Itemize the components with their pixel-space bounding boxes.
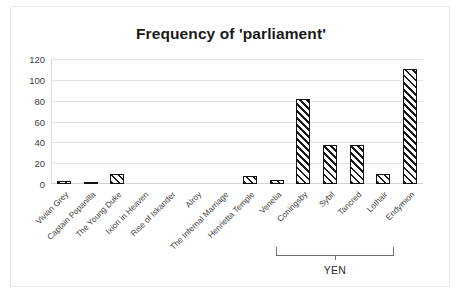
bar[interactable]: [350, 145, 364, 184]
bar-slot: [370, 59, 397, 184]
y-tick-label-40: 40: [34, 137, 45, 148]
bar-slot: [237, 59, 264, 184]
bar-slot: [343, 59, 370, 184]
yen-group-label: YEN: [276, 264, 394, 276]
y-tick-label-20: 20: [34, 158, 45, 169]
plot-area: 120 100 80 60 40 20 0: [51, 59, 423, 184]
x-axis-label: Alroy: [184, 190, 204, 210]
y-tick-label-0: 0: [40, 179, 45, 190]
y-tick-label-100: 100: [29, 74, 45, 85]
bar[interactable]: [84, 182, 98, 184]
bar-slot: [131, 59, 158, 184]
x-axis-label: Lothair: [365, 190, 389, 214]
bar-slot: [157, 59, 184, 184]
x-label-slot: Henrietta Temple: [237, 188, 264, 258]
yen-bracket-icon: [276, 247, 394, 256]
bar-series: [51, 59, 423, 184]
bar-slot: [104, 59, 131, 184]
bar[interactable]: [296, 99, 310, 184]
yen-annotation-group: YEN: [276, 247, 394, 276]
bar-slot: [78, 59, 105, 184]
bar-slot: [184, 59, 211, 184]
bar[interactable]: [270, 180, 284, 184]
x-axis-label: Sybil: [317, 190, 336, 209]
bar-slot: [210, 59, 237, 184]
bar-slot: [317, 59, 344, 184]
bar[interactable]: [323, 145, 337, 184]
chart-title: Frequency of 'parliament': [11, 25, 451, 43]
y-tick-label-120: 120: [29, 54, 45, 65]
bar[interactable]: [403, 69, 417, 184]
chart-container: Frequency of 'parliament' 120 100 80 60 …: [10, 6, 450, 287]
bar[interactable]: [243, 176, 257, 184]
bar[interactable]: [57, 181, 71, 184]
bar[interactable]: [110, 174, 124, 184]
bar-slot: [397, 59, 424, 184]
x-label-slot: Endymion: [396, 188, 423, 258]
y-tick-label-80: 80: [34, 95, 45, 106]
bar-slot: [51, 59, 78, 184]
y-tick-label-60: 60: [34, 116, 45, 127]
yen-bracket-tick: [335, 255, 336, 260]
bar-slot: [290, 59, 317, 184]
bar-slot: [264, 59, 291, 184]
bar[interactable]: [376, 174, 390, 184]
